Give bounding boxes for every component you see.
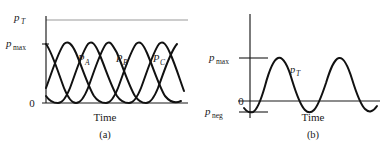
- panel-a-curve-label-pc-sub: C: [160, 58, 166, 67]
- panel-a-pmax-label-var: p: [5, 37, 12, 49]
- curve-pa: [46, 42, 177, 103]
- panel-b-pmax-label-sub: max: [216, 57, 229, 66]
- panel-b: p max p neg 0 p T Time (b): [204, 14, 380, 141]
- panel-b-caption: (b): [307, 129, 320, 141]
- figure-root: p T p max 0 P A P B P C Time (a): [0, 0, 390, 147]
- panel-a-curve-label-pc-var: P: [152, 53, 160, 64]
- panel-a-curve-label-pb-var: P: [115, 53, 123, 64]
- panel-a-curve-label-pa-var: P: [77, 53, 85, 64]
- panel-a-curve-label-pa-sub: A: [84, 58, 90, 67]
- panel-a-curve-label-pb-sub: B: [123, 58, 128, 67]
- figure-svg: p T p max 0 P A P B P C Time (a): [0, 0, 390, 147]
- panel-b-pmax-label-var: p: [208, 51, 215, 63]
- panel-a-caption: (a): [99, 129, 111, 141]
- panel-a-pt-label-sub: T: [21, 17, 26, 26]
- panel-a-zero-label: 0: [29, 97, 35, 109]
- curve-pt-b: [244, 58, 377, 113]
- panel-a-xlabel: Time: [94, 111, 117, 123]
- panel-a-pt-label-var: p: [13, 11, 20, 23]
- panel-b-curve-label-var: p: [289, 64, 295, 75]
- panel-b-curve-label-sub: T: [296, 69, 301, 78]
- panel-b-pneg-label-var: p: [204, 105, 211, 117]
- panel-a: p T p max 0 P A P B P C Time (a): [5, 11, 188, 141]
- panel-a-pmax-label-sub: max: [13, 43, 26, 52]
- panel-b-zero-label: 0: [238, 95, 244, 107]
- panel-b-pneg-label-sub: neg: [212, 111, 223, 120]
- panel-b-xlabel: Time: [302, 111, 325, 123]
